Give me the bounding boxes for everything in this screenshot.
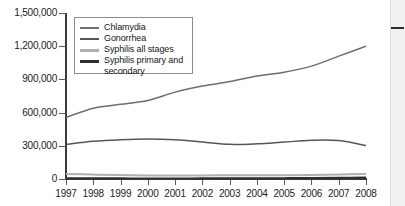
y-tick-mark	[59, 113, 66, 114]
page-edge-mark	[391, 27, 404, 29]
y-tick-mark	[59, 79, 66, 80]
x-tick-mark	[366, 180, 367, 185]
x-tick-mark	[339, 180, 340, 185]
legend-label-syphilis-primary-secondary: Syphilis primary and	[104, 55, 183, 66]
x-tick-mark	[66, 180, 67, 185]
x-tick-mark	[202, 180, 203, 185]
x-tick-mark	[284, 180, 285, 185]
series-line	[66, 178, 366, 179]
y-tick-mark	[59, 13, 66, 14]
legend-swatch-syphilis-primary-secondary	[80, 60, 99, 63]
y-tick-label: 1,200,000	[14, 41, 57, 51]
y-tick-mark	[59, 179, 66, 180]
y-tick-label: 300,000	[22, 141, 57, 151]
legend-item-gonorrhea: Gonorrhea	[80, 33, 187, 44]
x-tick-mark	[311, 180, 312, 185]
x-tick-mark	[230, 180, 231, 185]
x-tick-mark	[93, 180, 94, 185]
y-tick-label: 1,500,000	[14, 8, 57, 18]
x-tick-mark	[175, 180, 176, 185]
x-axis-labels: 1997199819992000200120022003200420052006…	[0, 188, 404, 204]
series-line	[66, 174, 366, 176]
page-edge-strip	[390, 0, 405, 206]
legend-item-syphilis-primary-secondary: Syphilis primary and	[80, 55, 187, 66]
legend-label-gonorrhea: Gonorrhea	[104, 33, 146, 44]
x-tick-label: 2008	[350, 188, 382, 199]
legend-swatch-gonorrhea	[80, 38, 99, 40]
chart-legend: Chlamydia Gonorrhea Syphilis all stages …	[74, 17, 193, 74]
y-tick-label: 900,000	[22, 74, 57, 84]
legend-label-syphilis-primary-secondary-line2: secondary	[104, 66, 187, 77]
legend-item-syphilis-all-stages: Syphilis all stages	[80, 44, 187, 55]
y-tick-label: 0	[52, 174, 57, 184]
legend-label-chlamydia: Chlamydia	[104, 22, 146, 33]
y-tick-label: 600,000	[22, 108, 57, 118]
y-axis-labels: 0300,000600,000900,0001,200,0001,500,000	[0, 0, 57, 206]
legend-item-chlamydia: Chlamydia	[80, 22, 187, 33]
y-tick-mark	[59, 146, 66, 147]
legend-swatch-syphilis-all-stages	[80, 49, 99, 52]
y-tick-mark	[59, 46, 66, 47]
x-tick-mark	[148, 180, 149, 185]
legend-label-syphilis-all-stages: Syphilis all stages	[104, 44, 174, 55]
series-line	[66, 139, 366, 146]
x-tick-mark	[257, 180, 258, 185]
legend-swatch-chlamydia	[80, 27, 99, 29]
x-tick-mark	[121, 180, 122, 185]
